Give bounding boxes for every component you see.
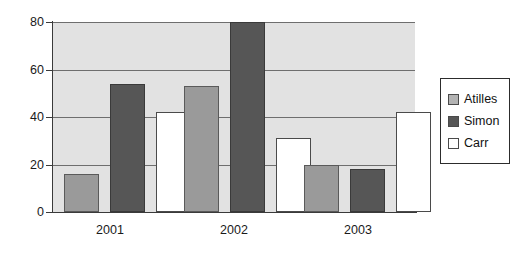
x-tick-label-2001: 2001 — [80, 224, 140, 237]
legend-swatch-icon-atilles — [448, 94, 459, 105]
legend-label-atilles: Atilles — [464, 93, 497, 106]
bar-2002-simon — [230, 22, 265, 212]
legend-swatch-icon-simon — [448, 116, 459, 127]
bar-2003-atilles — [304, 165, 339, 213]
bar-chart: 80 60 40 20 0 2001 2002 2003 Atilles Sim… — [0, 0, 529, 257]
y-tick-mark-40 — [46, 117, 52, 118]
legend-item-simon: Simon — [448, 110, 509, 132]
bar-2001-atilles — [64, 174, 99, 212]
bar-2003-carr — [396, 112, 431, 212]
legend: Atilles Simon Carr — [440, 78, 510, 164]
plot-area — [53, 22, 415, 212]
x-tick-label-2002: 2002 — [204, 224, 264, 237]
bar-2003-simon — [350, 169, 385, 212]
bar-2002-atilles — [184, 86, 219, 212]
legend-item-atilles: Atilles — [448, 88, 509, 110]
legend-swatch-icon-carr — [448, 138, 459, 149]
legend-label-carr: Carr — [464, 137, 488, 150]
y-tick-mark-80 — [46, 22, 52, 23]
y-tick-label-40: 40 — [0, 111, 44, 124]
y-tick-label-80: 80 — [0, 16, 44, 29]
y-tick-mark-0 — [46, 212, 52, 213]
y-tick-label-60: 60 — [0, 64, 44, 77]
x-tick-label-2003: 2003 — [328, 224, 388, 237]
y-tick-mark-60 — [46, 70, 52, 71]
y-tick-label-20: 20 — [0, 159, 44, 172]
y-tick-label-0: 0 — [0, 206, 44, 219]
legend-item-carr: Carr — [448, 132, 509, 154]
y-tick-mark-20 — [46, 165, 52, 166]
y-axis-line — [52, 21, 53, 213]
legend-label-simon: Simon — [464, 115, 499, 128]
bar-2001-simon — [110, 84, 145, 212]
x-axis-line — [52, 212, 417, 213]
